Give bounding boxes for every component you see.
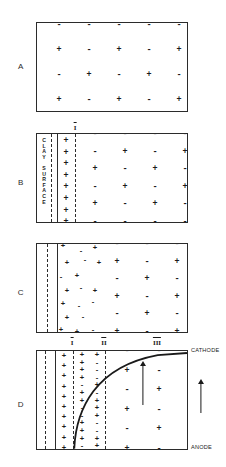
zone-label-text: I <box>74 124 77 132</box>
bulk-charge: + <box>115 256 120 265</box>
bulk-charge: - <box>117 70 120 79</box>
bulk-charge: + <box>93 199 98 208</box>
bulk-charge: - <box>183 199 186 208</box>
bulk-charge: - <box>87 23 90 28</box>
electro-osmotic-flow-arrow <box>138 361 148 405</box>
bulk-charge: - <box>157 405 160 414</box>
fixed-layer-positive-charge: + <box>62 403 66 411</box>
diffuse-layer-charge: - <box>80 247 83 255</box>
diffuse-layer-charge: - <box>78 302 81 310</box>
fixed-layer-positive-charge: + <box>62 434 66 442</box>
fixed-layer-positive-charge: + <box>64 171 69 180</box>
zone-label-d-I: I <box>71 337 74 347</box>
zone-label-d-III: III <box>153 337 161 347</box>
electrode-label-anode: ANODE <box>191 444 212 450</box>
bulk-charge: - <box>93 216 96 222</box>
bulk-charge: - <box>183 216 186 222</box>
bulk-charge: - <box>125 385 128 394</box>
panel-d-content: +++++++++++++-+-+--++-++-+-++-+-++-+---+… <box>37 351 187 449</box>
bulk-charge: + <box>125 405 130 414</box>
fixed-layer-positive-charge: + <box>64 217 69 222</box>
bulk-charge: - <box>153 134 156 137</box>
bulk-charge: - <box>183 134 186 137</box>
fixed-layer-positive-charge: + <box>64 194 69 203</box>
fixed-layer-positive-charge: + <box>62 362 66 370</box>
mobile-layer-charge: - <box>81 442 84 449</box>
bulk-charge: + <box>87 70 92 79</box>
panel-letter-b: B <box>12 178 30 187</box>
bulk-charge: - <box>117 23 120 28</box>
bulk-charge: + <box>175 326 180 332</box>
bulk-charge: - <box>147 95 150 104</box>
diffuse-layer-charge: - <box>92 326 95 332</box>
bulk-charge: + <box>145 274 150 283</box>
clay-surface-line <box>57 244 58 332</box>
panel-letter-a: A <box>12 62 30 71</box>
zone-label-d-II: II <box>101 337 106 347</box>
zone-boundary-II <box>105 351 106 449</box>
bulk-charge: - <box>145 244 148 247</box>
curve-path <box>74 353 187 449</box>
bulk-charge: - <box>145 291 148 300</box>
fixed-layer-positive-charge: + <box>62 373 66 381</box>
zone-label-text: I <box>71 339 74 347</box>
diffuse-layer-charge: - <box>82 313 85 321</box>
bulk-charge: + <box>125 444 130 449</box>
fixed-layer-positive-charge: + <box>62 424 66 432</box>
panel-b: CLAY SURFACE++++++++-----+-++-+--+-++-+-… <box>36 133 188 223</box>
bulk-charge: - <box>123 199 126 208</box>
bulk-charge: - <box>177 70 180 79</box>
bulk-charge: + <box>177 45 182 54</box>
diffuse-layer-charge: + <box>59 326 63 332</box>
diffuse-layer-charge: - <box>60 273 63 281</box>
bulk-charge: + <box>93 164 98 173</box>
bulk-charge: - <box>157 351 160 354</box>
bulk-charge: + <box>157 424 162 433</box>
bulk-charge: + <box>147 70 152 79</box>
bulk-charge: + <box>115 326 120 332</box>
bulk-charge: - <box>157 365 160 374</box>
bulk-charge: + <box>123 146 128 155</box>
bulk-charge: + <box>157 385 162 394</box>
bulk-charge: + <box>177 95 182 104</box>
arrow-shaft <box>200 383 201 413</box>
panel-b-content: CLAY SURFACE++++++++-----+-++-+--+-++-+-… <box>37 134 187 222</box>
diffuse-layer-charge: - <box>80 284 83 292</box>
bulk-charge: - <box>145 256 148 265</box>
fixed-layer-positive-charge: + <box>62 444 66 449</box>
mobile-layer-charge: + <box>95 442 99 449</box>
bulk-charge: - <box>153 216 156 222</box>
bulk-charge: + <box>183 181 187 190</box>
bulk-charge: - <box>177 23 180 28</box>
zone-label-text: II <box>101 339 106 347</box>
bulk-charge: + <box>57 45 62 54</box>
bulk-charge: - <box>125 424 128 433</box>
bulk-charge: + <box>175 256 180 265</box>
bulk-charge: + <box>57 95 62 104</box>
bulk-flow-direction-arrow <box>196 379 206 413</box>
bulk-charge: - <box>145 326 148 332</box>
fixed-layer-positive-charge: + <box>62 383 66 391</box>
bulk-charge: + <box>123 181 128 190</box>
diffuse-layer-charge: + <box>65 287 69 295</box>
bulk-charge: + <box>117 95 122 104</box>
diffuse-layer-charge: + <box>97 259 101 267</box>
zone-boundary-I <box>75 134 76 222</box>
panel-letter-c: C <box>12 288 30 297</box>
fixed-layer-positive-charge: + <box>64 147 69 156</box>
bulk-charge: - <box>175 309 178 318</box>
bulk-charge: - <box>147 45 150 54</box>
clay-surface-line <box>55 351 56 449</box>
bulk-charge: - <box>93 181 96 190</box>
panel-c-content: +-++-+-++-++--+-++-++-----+-+--+-++-+--+… <box>37 244 187 332</box>
diffuse-layer-charge: + <box>75 272 79 280</box>
clay-surface-dashed-line <box>47 244 48 332</box>
bulk-charge: + <box>117 45 122 54</box>
electro-osmotic-velocity-profile-curve <box>37 351 187 449</box>
bulk-charge: + <box>115 291 120 300</box>
fixed-layer-positive-charge: + <box>64 182 69 191</box>
diffuse-layer-charge: + <box>93 244 97 252</box>
zone-label-b-I: I <box>74 122 77 132</box>
bulk-charge: - <box>153 146 156 155</box>
bulk-charge: - <box>115 309 118 318</box>
